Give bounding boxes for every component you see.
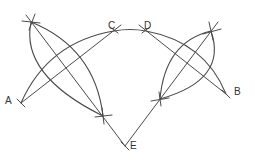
point-e-label: E bbox=[130, 141, 137, 151]
main-arc bbox=[21, 30, 226, 104]
bisector-right bbox=[125, 22, 218, 146]
point-c-label: C bbox=[108, 21, 115, 31]
point-d-label: D bbox=[144, 21, 151, 31]
tick-e bbox=[121, 142, 129, 150]
construction-diagram bbox=[0, 0, 254, 160]
line-a-c bbox=[21, 25, 121, 103]
point-a-label: A bbox=[5, 96, 12, 106]
point-b-label: B bbox=[234, 87, 241, 97]
tick-b bbox=[222, 90, 230, 98]
bisector-left bbox=[26, 15, 125, 146]
